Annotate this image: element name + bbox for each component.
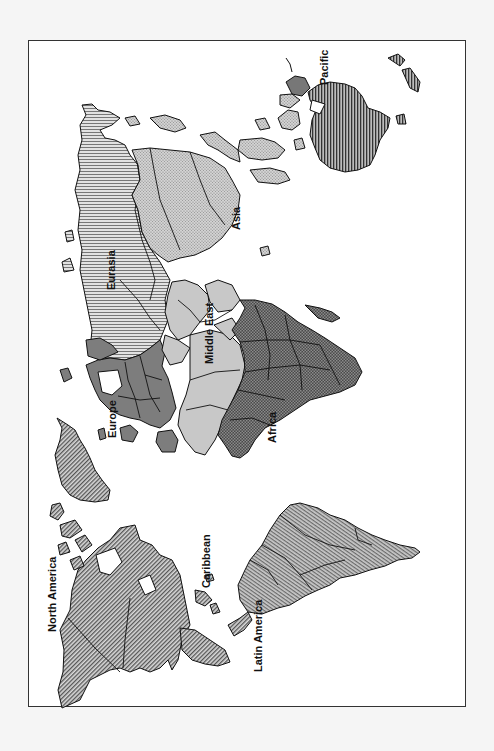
region-asia <box>125 110 305 262</box>
label-asia: Asia <box>230 206 242 230</box>
world-map: Pacific Asia Eurasia Middle East Europe … <box>0 0 494 751</box>
label-middle-east: Middle East <box>203 303 215 364</box>
label-eurasia: Eurasia <box>105 249 117 290</box>
region-north-america <box>50 418 190 708</box>
region-pacific <box>280 54 420 172</box>
label-europe: Europe <box>106 400 118 438</box>
label-africa: Africa <box>266 411 278 443</box>
label-caribbean: Caribbean <box>200 534 212 588</box>
label-latin-america: Latin America <box>252 599 264 672</box>
label-pacific: Pacific <box>318 50 330 85</box>
region-latin-america <box>238 503 420 614</box>
label-north-america: North America <box>46 556 58 632</box>
